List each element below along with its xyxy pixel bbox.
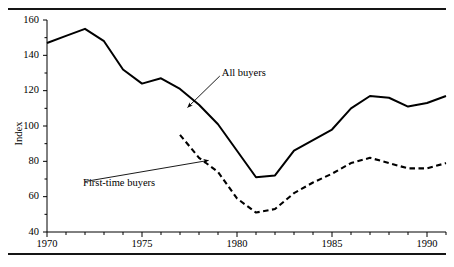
x-tick-label: 1990: [407, 239, 447, 250]
x-tick-label: 1985: [312, 239, 352, 250]
y-tick-label: 140: [13, 50, 39, 61]
figure-panel: Index 4060801001201401601970197519801985…: [0, 0, 454, 267]
series-annotation-label: All buyers: [222, 67, 266, 78]
y-tick-label: 160: [13, 15, 39, 26]
x-tick-label: 1975: [122, 239, 162, 250]
annotation-arrow: [188, 76, 220, 107]
series-line-all-buyers: [47, 29, 446, 177]
y-tick-label: 100: [13, 121, 39, 132]
y-tick-label: 120: [13, 85, 39, 96]
x-tick-label: 1980: [217, 239, 257, 250]
x-tick-label: 1970: [27, 239, 67, 250]
y-tick-label: 80: [13, 156, 39, 167]
axes-group: [43, 20, 446, 237]
series-line-first-time-buyers: [180, 135, 446, 213]
series-annotation-label: First-time buyers: [83, 177, 155, 188]
line-chart: [0, 0, 454, 267]
y-tick-label: 40: [13, 227, 39, 238]
y-tick-label: 60: [13, 191, 39, 202]
annotation-arrows-group: [85, 76, 220, 182]
